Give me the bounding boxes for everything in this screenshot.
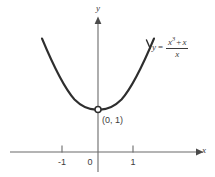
y-axis-arrowhead <box>95 17 102 25</box>
x-axis-label: x <box>202 146 206 155</box>
equation-leader-line <box>147 40 151 48</box>
equation-annotation: y = x3+x x <box>152 36 188 59</box>
x-tick-label-zero: 0 <box>82 158 98 167</box>
open-circle-marker <box>95 107 101 113</box>
y-axis-label: y <box>96 4 100 13</box>
equation-numerator: x3+x <box>166 36 188 48</box>
x-tick-label-negative-one: -1 <box>54 158 70 167</box>
numerator-second-term: x <box>182 37 186 47</box>
equation-denominator: x <box>173 49 181 59</box>
equation-left-hand-side: y <box>152 43 156 52</box>
equation-equals-sign: = <box>158 43 163 52</box>
curve-left-branch <box>42 39 96 110</box>
x-tick-label-one: 1 <box>125 158 141 167</box>
point-label-origin-one: (0, 1) <box>102 116 123 125</box>
graph-figure <box>0 0 215 177</box>
equation-fraction: x3+x x <box>166 36 188 59</box>
curve-right-branch <box>100 39 154 110</box>
